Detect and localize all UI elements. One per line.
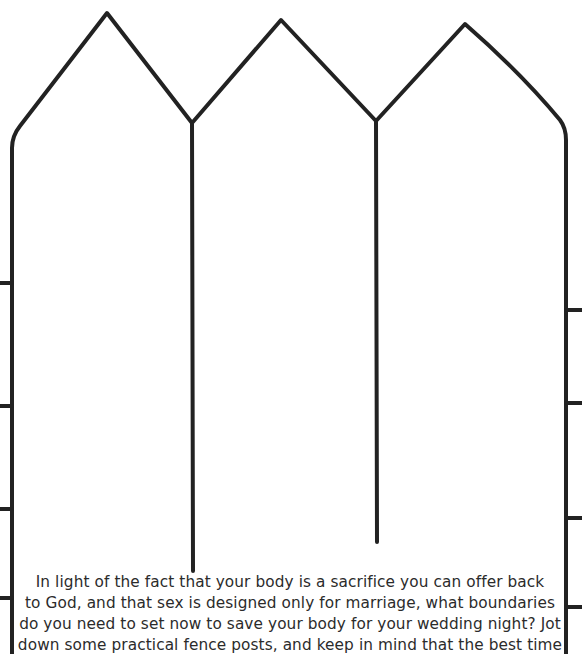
fence-post-divider-2 [376,121,377,542]
prompt-line: down some practical fence posts, and kee… [14,635,566,654]
prompt-line: do you need to set now to save your body… [14,614,566,635]
fence-post-divider-1 [192,123,193,571]
prompt-line: to God, and that sex is designed only fo… [14,593,566,614]
fence-outline [12,13,566,654]
prompt-line: In light of the fact that your body is a… [14,572,566,593]
worksheet-prompt: In light of the fact that your body is a… [14,572,566,654]
picket-fence-illustration [0,0,582,654]
